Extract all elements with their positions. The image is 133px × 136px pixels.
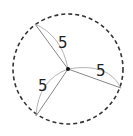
circle-diagram: 5 5 5 — [0, 0, 133, 136]
radius-label-upper-left: 5 — [58, 34, 68, 52]
radius-right — [68, 69, 121, 88]
radius-label-lower-left: 5 — [38, 77, 48, 95]
radius-label-right: 5 — [96, 62, 106, 80]
center-point — [66, 67, 70, 71]
